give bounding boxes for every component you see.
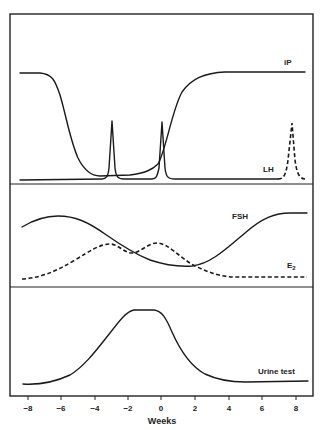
x-axis-label: Weeks [148,416,176,426]
x-tick-label: −2 [123,404,133,413]
e2-curve [22,243,307,279]
x-axis: −8 −6 −4 −2 0 2 4 6 8 Weeks [23,396,298,426]
lh-dashed-curve [278,123,306,179]
x-tick-label: 4 [227,404,232,413]
x-tick-label: −8 [23,404,33,413]
ip-label: iP [284,58,292,67]
x-tick-label: −6 [56,404,66,413]
hormone-chart: iP LH FSH E2 Urine test −8 −6 −4 −2 0 2 … [0,0,323,430]
x-tick-label: 8 [294,404,299,413]
lh-label: LH [263,165,274,174]
x-tick-label: −4 [90,404,100,413]
lh-curve [20,121,278,180]
urine-test-label: Urine test [258,367,295,376]
x-tick-label: 6 [260,404,265,413]
x-tick-label: 0 [159,404,164,413]
x-tick-label: 2 [193,404,198,413]
fsh-label: FSH [232,212,248,221]
fsh-curve [22,213,307,266]
e2-label: E2 [287,261,296,271]
